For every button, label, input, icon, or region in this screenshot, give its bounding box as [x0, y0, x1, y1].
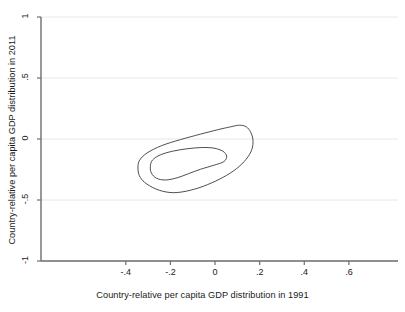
y-axis-title: Country-relative per capita GDP distribu… — [7, 35, 17, 244]
chart-figure: Country-relative per capita GDP distribu… — [0, 0, 405, 312]
tick-marks — [37, 17, 349, 265]
x-tick-label: 0 — [195, 267, 235, 277]
contour-inner-contour — [150, 148, 226, 180]
x-tick-label: .6 — [329, 267, 369, 277]
gridlines — [41, 17, 398, 261]
x-tick-label: -.2 — [150, 267, 190, 277]
contour-plot-canvas — [0, 0, 405, 312]
y-tick-label: 0 — [20, 128, 30, 148]
y-tick-label: -1 — [20, 250, 30, 270]
y-tick-label: 1 — [20, 6, 30, 26]
x-tick-label: -.4 — [106, 267, 146, 277]
x-tick-label: .4 — [284, 267, 324, 277]
contour-outer-contour — [138, 125, 253, 192]
y-tick-label: .5 — [20, 67, 30, 87]
contour-series — [138, 125, 253, 192]
x-tick-label: .2 — [240, 267, 280, 277]
x-axis-title: Country-relative per capita GDP distribu… — [0, 290, 405, 300]
y-tick-label: -.5 — [20, 189, 30, 209]
